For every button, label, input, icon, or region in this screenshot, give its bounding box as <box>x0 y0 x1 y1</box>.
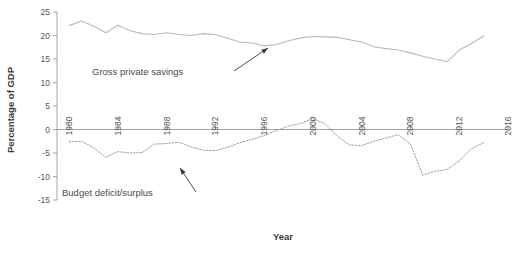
line-chart: 2520151050-5-10-15 198019841988199219962… <box>0 0 525 256</box>
x-tick-label: 1984 <box>113 116 123 135</box>
x-tick-label: 2016 <box>503 116 513 135</box>
chart-figure: 2520151050-5-10-15 198019841988199219962… <box>0 0 525 256</box>
x-tick-label: 2012 <box>454 116 464 135</box>
x-axis: 1980198419881992199620002004200820122016 <box>57 116 513 135</box>
x-tick-label: 1996 <box>259 116 269 135</box>
y-tick-label: -10 <box>38 172 51 182</box>
data-series-group <box>69 21 483 175</box>
x-tick-label: 1992 <box>210 116 220 135</box>
x-tick-label: 1980 <box>64 116 74 135</box>
y-tick-label: 20 <box>41 31 51 41</box>
y-tick-label: 0 <box>45 125 50 135</box>
y-tick-label: -5 <box>42 148 50 158</box>
y-tick-label: 25 <box>41 7 51 17</box>
x-tick-label: 1988 <box>162 116 172 135</box>
series-line-budget-deficit-surplus <box>69 119 483 175</box>
y-axis-ticks: 2520151050-5-10-15 <box>38 7 57 205</box>
x-tick-label: 2004 <box>357 116 367 135</box>
y-tick-label: -15 <box>38 195 51 205</box>
x-axis-title: Year <box>273 231 293 242</box>
series-line-gross-private-savings <box>69 21 483 62</box>
x-tick-label: 2008 <box>405 116 415 135</box>
y-tick-label: 15 <box>41 54 51 64</box>
annotation-arrowhead-budget-deficit-surplus <box>180 168 186 175</box>
y-axis: 2520151050-5-10-15 <box>38 7 57 205</box>
series-annotation-label-gross-private-savings: Gross private savings <box>92 66 184 77</box>
series-annotation-label-budget-deficit-surplus: Budget deficit/surplus <box>62 187 153 198</box>
y-axis-title: Percentage of GDP <box>5 66 16 153</box>
y-tick-label: 5 <box>45 101 50 111</box>
y-tick-label: 10 <box>41 78 51 88</box>
annotation-arrowhead-gross-private-savings <box>261 48 268 54</box>
